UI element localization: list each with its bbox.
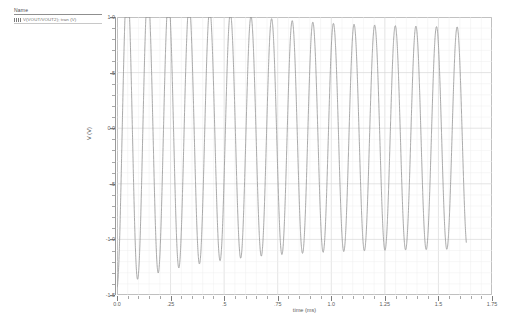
y-axis-tick-label: -1.5 (106, 292, 115, 298)
x-axis-minor-tick (267, 296, 268, 299)
x-axis-title: time (ms) (117, 307, 492, 313)
x-axis-minor-tick (213, 296, 214, 299)
legend-panel: Name V(VOUT/VOUT2); tran (V) (14, 7, 102, 24)
x-axis-minor-tick (192, 296, 193, 299)
x-axis-minor-tick (342, 296, 343, 299)
y-axis-tick-label: .5 (111, 70, 116, 76)
x-axis-major-tick (117, 296, 118, 301)
legend-item[interactable]: V(VOUT/VOUT2); tran (V) (14, 17, 102, 22)
y-axis-spine (115, 17, 116, 295)
x-axis-minor-tick (138, 296, 139, 299)
y-axis-title: V (V) (86, 127, 92, 140)
x-axis-major-tick (171, 296, 172, 301)
x-axis-major-tick (278, 296, 279, 301)
x-axis-minor-tick (481, 296, 482, 299)
x-axis-minor-tick (449, 296, 450, 299)
x-axis-major-tick (224, 296, 225, 301)
x-axis-minor-tick (128, 296, 129, 299)
legend-divider (14, 14, 102, 15)
legend-swatch-icon (14, 18, 21, 22)
x-axis-minor-tick (471, 296, 472, 299)
x-axis-minor-tick (310, 296, 311, 299)
x-axis-minor-tick (396, 296, 397, 299)
x-axis-minor-tick (417, 296, 418, 299)
legend-item-label: V(VOUT/VOUT2); tran (V) (23, 17, 76, 22)
y-axis-tick-label: -1.0 (106, 236, 115, 242)
x-axis-minor-tick (353, 296, 354, 299)
x-axis-minor-tick (235, 296, 236, 299)
x-axis-major-tick (438, 296, 439, 301)
y-axis-tick-label: 0.0 (108, 125, 116, 131)
x-axis-minor-tick (406, 296, 407, 299)
x-axis-minor-tick (149, 296, 150, 299)
y-axis-tick-label: -.5 (109, 181, 115, 187)
x-axis-minor-tick (428, 296, 429, 299)
x-axis-minor-tick (160, 296, 161, 299)
waveform-trace (117, 17, 492, 295)
plot-area[interactable] (117, 17, 492, 295)
x-axis-minor-tick (203, 296, 204, 299)
y-axis: 1.0.50.0-.5-1.0-1.5 (101, 17, 115, 295)
legend-header: Name (14, 7, 102, 14)
x-axis-minor-tick (299, 296, 300, 299)
x-axis-major-tick (385, 296, 386, 301)
legend-bottom-divider (14, 23, 102, 24)
x-axis-minor-tick (374, 296, 375, 299)
x-axis-major-tick (492, 296, 493, 301)
x-axis-major-tick (331, 296, 332, 301)
x-axis-minor-tick (460, 296, 461, 299)
x-axis-minor-tick (256, 296, 257, 299)
y-axis-tick-label: 1.0 (108, 14, 116, 20)
x-axis-minor-tick (246, 296, 247, 299)
x-axis-minor-tick (321, 296, 322, 299)
x-axis-minor-tick (288, 296, 289, 299)
x-axis-minor-tick (181, 296, 182, 299)
x-axis-minor-tick (363, 296, 364, 299)
